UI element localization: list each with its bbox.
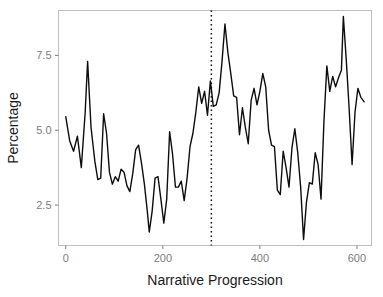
x-tick-label: 600 [348,252,366,264]
x-tick-label: 0 [63,252,69,264]
chart-figure: 2.55.07.5 0200400600 Narrative Progressi… [0,0,383,297]
figure-background [0,0,383,297]
y-axis-title: Percentage [5,92,21,164]
y-tick-label: 5.0 [36,124,51,136]
y-tick-label: 7.5 [36,49,51,61]
x-tick-label: 400 [251,252,269,264]
x-axis-title: Narrative Progression [147,272,282,288]
y-tick-label: 2.5 [36,199,51,211]
line-chart-canvas: 2.55.07.5 0200400600 Narrative Progressi… [0,0,383,297]
x-tick-label: 200 [154,252,172,264]
